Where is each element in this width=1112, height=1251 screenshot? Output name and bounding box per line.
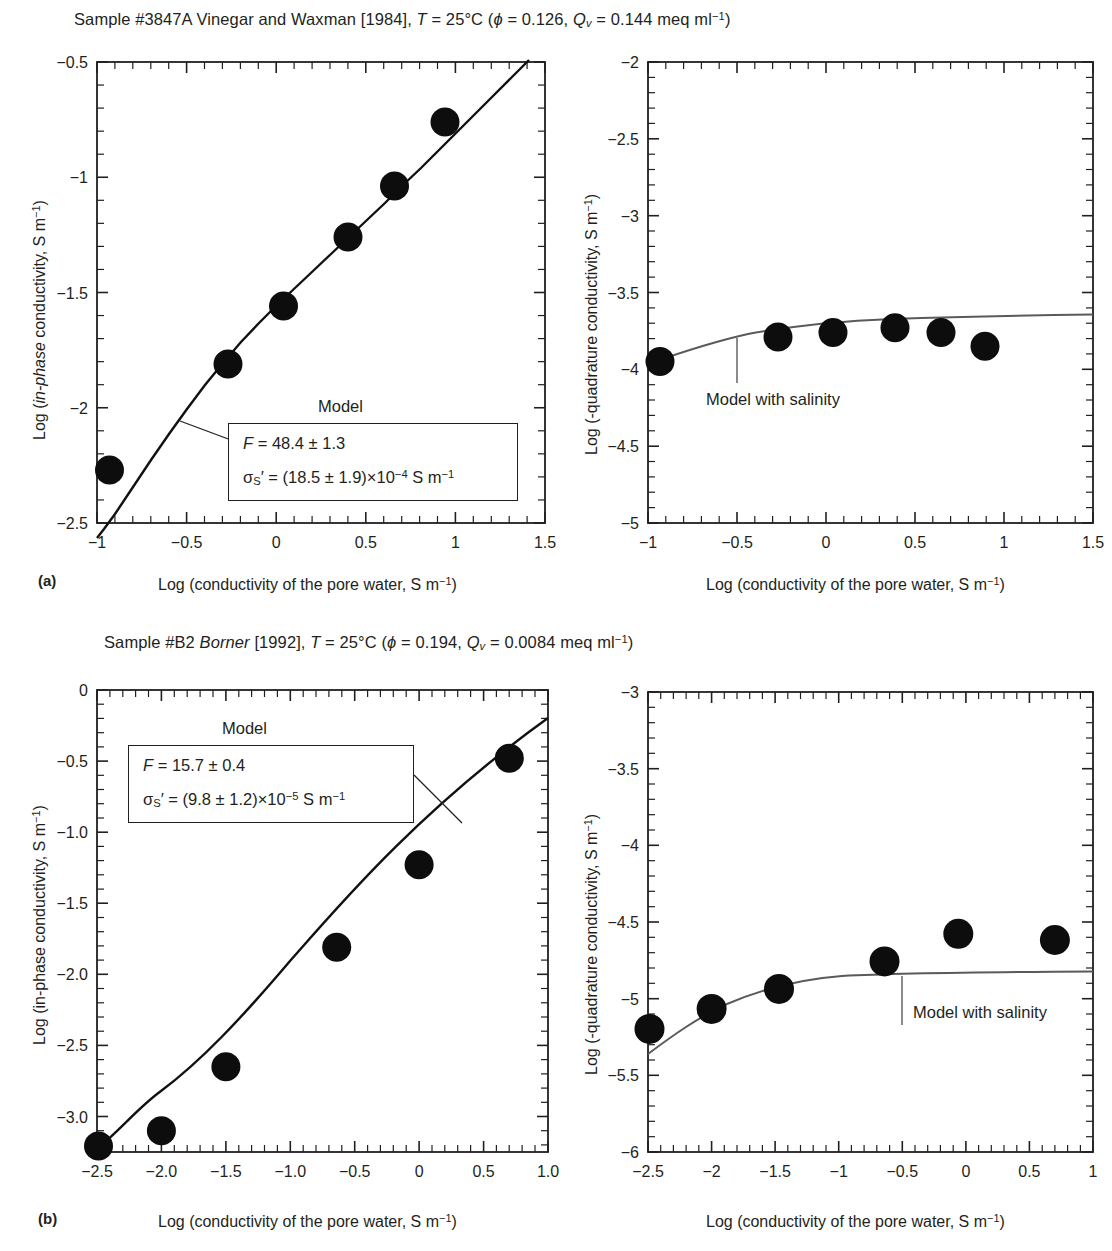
panel-a-title-prefix: Sample #3847A Vinegar and Waxman [1984], bbox=[74, 10, 417, 28]
panel-b-title-prefix: Sample #B2 bbox=[104, 633, 200, 651]
panel-a-title-phi: ϕ bbox=[493, 10, 502, 28]
model-box-b-line1: F = 15.7 ± 0.4 bbox=[143, 756, 245, 775]
y-tick-label: −4.5 bbox=[607, 438, 639, 455]
panel-a-title-temp: = 25°C ( bbox=[427, 10, 494, 28]
ylabel-a-left-post: ) bbox=[31, 200, 48, 205]
data-point bbox=[95, 456, 124, 485]
model-salinity-curve bbox=[648, 315, 1093, 365]
plot-a-right: −1 −0.5 0 0.5 1 1.5 −2 −2.5 −3 −3.5 −4 −… bbox=[552, 40, 1112, 540]
data-point bbox=[495, 744, 524, 773]
data-point bbox=[635, 1014, 665, 1044]
data-point bbox=[764, 323, 793, 352]
callout-leader bbox=[180, 421, 231, 440]
data-point bbox=[269, 292, 298, 321]
data-point bbox=[646, 347, 675, 376]
x-tick-label: −2.5 bbox=[632, 1163, 664, 1180]
data-point bbox=[334, 223, 363, 252]
data-point bbox=[147, 1116, 176, 1145]
ylabel-a-right: Log (-quadrature conductivity, S m−1) bbox=[582, 194, 601, 455]
data-points bbox=[635, 919, 1070, 1044]
data-point bbox=[943, 919, 973, 949]
y-tick-label: −3.5 bbox=[607, 285, 639, 302]
y-tick-labels: −3 −3.5 −4 −4.5 −5 −5.5 −6 bbox=[607, 684, 639, 1161]
panel-b-title-T: T bbox=[310, 633, 320, 651]
model-b-F-symbol: F bbox=[143, 756, 153, 774]
y-tick-labels: −0.5 −1 −1.5 −2 −2.5 bbox=[56, 54, 88, 532]
y-tick-label: −3 bbox=[621, 208, 639, 225]
x-tick-label: −2.0 bbox=[146, 1163, 178, 1180]
data-point bbox=[971, 332, 1000, 361]
ylabel-b-left: Log (in-phase conductivity, S m−1) bbox=[30, 805, 49, 1045]
model-a-F-symbol: F bbox=[243, 434, 253, 452]
y-tick-labels: −2 −2.5 −3 −3.5 −4 −4.5 −5 bbox=[607, 54, 639, 532]
y-tick-label: −5.5 bbox=[607, 1067, 639, 1084]
x-ticks bbox=[648, 692, 1093, 1152]
xlabel-a-left: Log (conductivity of the pore water, S m… bbox=[158, 575, 457, 594]
xlabel-a-right-exp: −1 bbox=[987, 575, 999, 587]
xlabel-b-left-post: ) bbox=[451, 1213, 456, 1230]
xlabel-b-right-post: ) bbox=[999, 1213, 1004, 1230]
panel-b-title-temp: = 25°C ( bbox=[320, 633, 387, 651]
x-tick-label: 0.5 bbox=[1018, 1163, 1040, 1180]
model-b-sigma-symbol: σ bbox=[143, 790, 153, 808]
panel-a-title: Sample #3847A Vinegar and Waxman [1984],… bbox=[74, 10, 731, 29]
xlabel-a-left-post: ) bbox=[451, 576, 456, 593]
x-tick-label: −1.5 bbox=[759, 1163, 791, 1180]
model-b-sigma-value: = (9.8 ± 1.2)×10 bbox=[164, 790, 286, 808]
y-tick-label: −4.5 bbox=[607, 914, 639, 931]
x-tick-label: −0.5 bbox=[339, 1163, 371, 1180]
data-point bbox=[927, 318, 956, 347]
x-tick-label: −1 bbox=[830, 1163, 848, 1180]
x-tick-labels: −1 −0.5 0 0.5 1 1.5 bbox=[639, 534, 1104, 551]
data-point bbox=[431, 108, 460, 137]
y-tick-label: −5 bbox=[621, 515, 639, 532]
model-box-b: F = 15.7 ± 0.4 σS′ = (9.8 ± 1.2)×10−5 S … bbox=[128, 745, 414, 823]
y-ticks bbox=[648, 62, 1093, 523]
plot-frame bbox=[648, 62, 1093, 523]
x-tick-label: −2 bbox=[702, 1163, 720, 1180]
ylabel-b-left-pre: Log (in-phase conductivity, S m bbox=[31, 823, 48, 1045]
y-tick-label: −5 bbox=[621, 991, 639, 1008]
ylabel-a-right-exp: −1 bbox=[582, 199, 594, 211]
x-tick-label: 0.5 bbox=[472, 1163, 494, 1180]
panel-b-title: Sample #B2 Borner [1992], T = 25°C (ϕ = … bbox=[104, 633, 633, 652]
x-tick-label: 0 bbox=[415, 1163, 424, 1180]
xlabel-b-right: Log (conductivity of the pore water, S m… bbox=[706, 1212, 1005, 1231]
ylabel-a-right-post: ) bbox=[583, 194, 600, 199]
y-tick-label: −4 bbox=[621, 361, 639, 378]
ylabel-b-right-post: ) bbox=[583, 814, 600, 819]
xlabel-b-left: Log (conductivity of the pore water, S m… bbox=[158, 1212, 457, 1231]
ylabel-b-left-exp: −1 bbox=[30, 811, 42, 823]
model-b-sigma-tailexp: −1 bbox=[332, 790, 345, 802]
x-tick-label: 0 bbox=[272, 534, 281, 551]
y-tick-label: −1 bbox=[70, 169, 88, 186]
y-tick-label: −2 bbox=[70, 400, 88, 417]
data-point bbox=[697, 994, 727, 1024]
panel-b-title-phi: ϕ bbox=[387, 633, 396, 651]
ylabel-a-left-exp: −1 bbox=[30, 206, 42, 218]
x-tick-label: 0 bbox=[961, 1163, 970, 1180]
plot-b-right: −2.5 −2 −1.5 −1 −0.5 0 0.5 1 −3 −3.5 −4 … bbox=[552, 660, 1112, 1190]
panel-b-title-Q: Q bbox=[467, 633, 480, 651]
callout-leader bbox=[414, 775, 462, 823]
panel-b-tag: (b) bbox=[38, 1210, 57, 1227]
model-a-sigma-symbol: σ bbox=[243, 468, 253, 486]
panel-b-title-suffix: ) bbox=[628, 633, 634, 651]
data-point bbox=[1040, 925, 1070, 955]
y-ticks bbox=[648, 692, 1093, 1152]
y-tick-label: −2.5 bbox=[56, 1037, 88, 1054]
x-tick-label: −1 bbox=[639, 534, 657, 551]
y-tick-label: −0.5 bbox=[56, 54, 88, 71]
xlabel-a-left-pre: Log (conductivity of the pore water, S m bbox=[158, 576, 439, 593]
ylabel-a-left-pre: Log ( bbox=[31, 404, 48, 440]
data-point bbox=[819, 318, 848, 347]
data-point bbox=[214, 350, 243, 379]
panel-a-title-qval: = 0.144 meq ml bbox=[592, 10, 712, 28]
model-b-sigma-tail: S m bbox=[298, 790, 332, 808]
y-tick-labels: 0 −0.5 −1.0 −1.5 −2.0 −2.5 −3.0 bbox=[56, 682, 88, 1126]
salinity-label-b: Model with salinity bbox=[913, 1003, 1047, 1022]
ylabel-b-right: Log (-quadrature conductivity, S m−1) bbox=[582, 814, 601, 1075]
panel-b-title-italic: Borner bbox=[200, 633, 250, 651]
data-point bbox=[870, 946, 900, 976]
x-tick-label: −0.5 bbox=[171, 534, 203, 551]
